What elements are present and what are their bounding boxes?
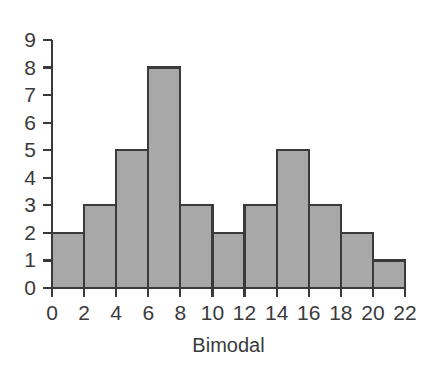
bar-2-4 <box>84 205 116 288</box>
bar-16-18 <box>309 205 341 288</box>
bar-14-16 <box>277 150 309 288</box>
x-tick-label-22: 22 <box>393 301 416 324</box>
x-axis-title: Bimodal <box>192 334 264 356</box>
y-tick-label-9: 9 <box>24 28 36 51</box>
bar-18-20 <box>341 233 373 288</box>
x-tick-label-14: 14 <box>265 301 289 324</box>
y-tick-label-5: 5 <box>24 138 36 161</box>
x-tick-label-12: 12 <box>233 301 256 324</box>
y-axis-ticks: 0123456789 <box>24 28 52 299</box>
bar-10-12 <box>212 233 244 288</box>
bar-8-10 <box>180 205 212 288</box>
x-tick-label-8: 8 <box>175 301 187 324</box>
histogram-chart: 01234567890246810121416182022Bimodal <box>0 0 442 368</box>
y-tick-label-0: 0 <box>24 276 36 299</box>
bar-0-2 <box>52 233 84 288</box>
x-tick-label-4: 4 <box>110 301 122 324</box>
bar-20-22 <box>373 260 405 288</box>
x-tick-label-0: 0 <box>46 301 58 324</box>
y-tick-label-1: 1 <box>24 248 36 271</box>
x-tick-label-20: 20 <box>361 301 384 324</box>
y-tick-label-7: 7 <box>24 83 36 106</box>
x-tick-label-18: 18 <box>329 301 352 324</box>
bar-6-8 <box>148 68 180 288</box>
chart-canvas: 01234567890246810121416182022Bimodal <box>0 0 442 368</box>
y-tick-label-2: 2 <box>24 221 36 244</box>
x-axis-ticks: 0246810121416182022 <box>46 288 417 324</box>
bar-4-6 <box>116 150 148 288</box>
y-tick-label-8: 8 <box>24 56 36 79</box>
x-tick-label-6: 6 <box>142 301 154 324</box>
x-tick-label-2: 2 <box>78 301 90 324</box>
bars-group <box>52 68 405 288</box>
bar-12-14 <box>245 205 277 288</box>
x-tick-label-10: 10 <box>201 301 224 324</box>
y-tick-label-4: 4 <box>24 166 36 189</box>
x-tick-label-16: 16 <box>297 301 320 324</box>
y-tick-label-3: 3 <box>24 193 36 216</box>
y-tick-label-6: 6 <box>24 111 36 134</box>
